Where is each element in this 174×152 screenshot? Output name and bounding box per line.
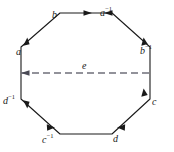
diagonal-label-e: e [82, 61, 87, 71]
diagonal-e-line [21, 70, 150, 76]
edge-label-d-inverse: d−1 [3, 96, 15, 106]
edge-label-c: c [152, 97, 157, 107]
arrowhead-edge-d-inverse [23, 100, 29, 108]
edge-label-d: d [113, 134, 118, 144]
arrowhead-edge-c [141, 89, 147, 97]
arrowhead-edge-b [84, 10, 93, 16]
edge-label-b-inverse: b−1 [140, 46, 152, 56]
octagon-outline [21, 13, 150, 134]
arrowhead-edge-a [23, 38, 29, 46]
octagon-graphic [0, 0, 174, 152]
edge-label-a-inverse: a−1 [100, 8, 112, 18]
diagonal-arrowhead [21, 70, 30, 76]
edge-label-a: a [16, 47, 21, 57]
octagon-boundary [21, 13, 150, 134]
edge-label-b: b [52, 10, 57, 20]
edge-label-c-inverse: c−1 [42, 135, 54, 145]
octagon-diagram: b a−1 a b−1 d−1 c c−1 d e [0, 0, 174, 152]
